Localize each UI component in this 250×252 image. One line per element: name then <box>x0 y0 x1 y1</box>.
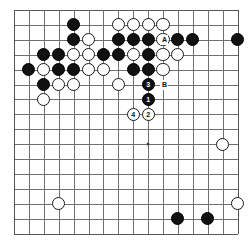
stone-white[interactable] <box>112 78 125 91</box>
stone-black[interactable] <box>67 63 80 76</box>
stone-black[interactable] <box>186 33 199 46</box>
stone-white[interactable] <box>216 138 229 151</box>
grid-line-vertical <box>103 10 104 234</box>
stone-white[interactable] <box>82 63 95 76</box>
stone-move-number: 4 <box>128 109 139 120</box>
board-marker-b: B <box>160 80 168 90</box>
stone-black[interactable] <box>171 212 184 225</box>
stone-white[interactable] <box>52 197 65 210</box>
stone-black[interactable] <box>112 48 125 61</box>
stone-move-number: 1 <box>143 94 154 105</box>
stone-white[interactable] <box>67 48 80 61</box>
stone-white[interactable] <box>82 48 95 61</box>
stone-white[interactable] <box>52 78 65 91</box>
stone-white[interactable] <box>171 48 184 61</box>
stone-black[interactable] <box>142 33 155 46</box>
stone-white[interactable] <box>82 33 95 46</box>
stone-move-number: 2 <box>143 109 154 120</box>
stone-white[interactable] <box>127 48 140 61</box>
grid-line-horizontal <box>14 204 238 205</box>
stone-black[interactable] <box>67 33 80 46</box>
stone-black[interactable] <box>52 48 65 61</box>
go-board[interactable]: 3142AB <box>0 0 250 252</box>
stone-black[interactable] <box>201 212 214 225</box>
stone-white[interactable] <box>37 63 50 76</box>
grid-line-horizontal <box>14 40 238 41</box>
move-stone-4[interactable]: 4 <box>127 108 140 121</box>
stone-white[interactable] <box>97 63 110 76</box>
stone-black[interactable] <box>127 33 140 46</box>
stone-black[interactable] <box>22 63 35 76</box>
stone-black[interactable] <box>231 33 244 46</box>
stone-black[interactable] <box>112 33 125 46</box>
grid-line-vertical <box>14 10 15 234</box>
stone-white[interactable] <box>142 18 155 31</box>
stone-white[interactable] <box>231 197 244 210</box>
stone-black[interactable] <box>67 18 80 31</box>
grid-line-horizontal <box>14 10 238 11</box>
grid-line-vertical <box>29 10 30 234</box>
stone-black[interactable] <box>127 63 140 76</box>
move-stone-2[interactable]: 2 <box>142 108 155 121</box>
board-marker-a: A <box>160 35 168 45</box>
stone-black[interactable] <box>37 48 50 61</box>
stone-black[interactable] <box>37 78 50 91</box>
grid-line-vertical <box>44 10 45 234</box>
stone-white[interactable] <box>37 93 50 106</box>
stone-black[interactable] <box>171 33 184 46</box>
grid-line-horizontal <box>14 25 238 26</box>
stone-white[interactable] <box>67 78 80 91</box>
grid-line-horizontal <box>14 189 238 190</box>
move-stone-1[interactable]: 1 <box>142 93 155 106</box>
grid-line-vertical <box>208 10 209 234</box>
grid-line-vertical <box>223 10 224 234</box>
grid-line-horizontal <box>14 129 238 130</box>
grid-line-horizontal <box>14 174 238 175</box>
grid-line-horizontal <box>14 159 238 160</box>
stone-white[interactable] <box>156 18 169 31</box>
move-stone-3[interactable]: 3 <box>142 78 155 91</box>
grid-line-horizontal <box>14 144 238 145</box>
grid-line-horizontal <box>14 234 238 235</box>
stone-black[interactable] <box>142 48 155 61</box>
grid-line-horizontal <box>14 114 238 115</box>
stone-black[interactable] <box>52 63 65 76</box>
stone-white[interactable] <box>112 18 125 31</box>
stone-white[interactable] <box>127 18 140 31</box>
stone-black[interactable] <box>97 48 110 61</box>
stone-white[interactable] <box>156 63 169 76</box>
star-point <box>147 143 150 146</box>
stone-move-number: 3 <box>143 79 154 90</box>
stone-black[interactable] <box>142 63 155 76</box>
stone-white[interactable] <box>156 48 169 61</box>
